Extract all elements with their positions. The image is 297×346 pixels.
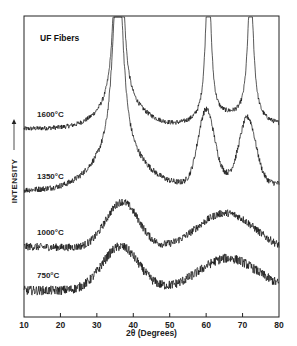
plot-frame bbox=[24, 16, 279, 317]
series-label: 1000°C bbox=[37, 228, 64, 237]
y-axis-label: INTENSITY bbox=[10, 158, 19, 203]
series-label: 1600°C bbox=[37, 110, 64, 119]
x-tick-label: 60 bbox=[201, 320, 211, 330]
arrow-up-icon bbox=[12, 119, 17, 124]
plot-curves bbox=[24, 17, 279, 295]
x-tick-label: 30 bbox=[92, 320, 102, 330]
series-label: 750°C bbox=[37, 271, 60, 280]
series-curve-3 bbox=[24, 243, 279, 295]
y-axis-label-group: INTENSITY bbox=[10, 119, 19, 203]
series-labels: 1600°C1350°C1000°C750°C bbox=[37, 110, 64, 280]
x-tick-label: 80 bbox=[274, 320, 284, 330]
series-label: 1350°C bbox=[37, 172, 64, 181]
chart-title: UF Fibers bbox=[40, 33, 79, 43]
xrd-chart: 1020304050607080 UF Fibers 2θ (Degrees) … bbox=[0, 0, 297, 346]
x-tick-label: 10 bbox=[19, 320, 29, 330]
x-axis-label: 2θ (Degrees) bbox=[126, 328, 177, 338]
x-tick-label: 70 bbox=[238, 320, 248, 330]
x-tick-label: 20 bbox=[56, 320, 66, 330]
series-curve-2 bbox=[24, 199, 279, 251]
series-curve-1 bbox=[24, 17, 279, 193]
